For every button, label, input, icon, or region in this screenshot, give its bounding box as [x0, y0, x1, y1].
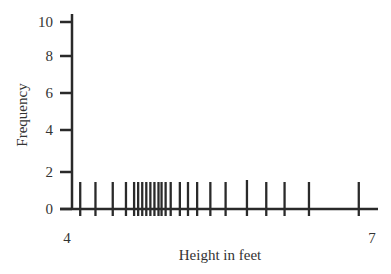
y-tick-label: 0: [46, 201, 54, 217]
rug-lines: [80, 180, 359, 216]
x-axis-title: Height in feet: [179, 247, 262, 263]
y-tick-label: 4: [46, 122, 54, 138]
x-tick-label: 7: [368, 230, 376, 246]
y-axis-title: Frequency: [14, 83, 30, 147]
x-tick-label: 4: [63, 230, 71, 246]
y-tick-label: 6: [46, 85, 54, 101]
y-tick-label: 10: [38, 14, 53, 30]
y-tick-label: 2: [46, 164, 54, 180]
y-axis: 1086420: [38, 14, 72, 217]
x-axis: 47: [60, 209, 378, 246]
rug-plot: 1086420 47 Frequency Height in feet: [0, 0, 391, 274]
y-tick-label: 8: [46, 48, 54, 64]
